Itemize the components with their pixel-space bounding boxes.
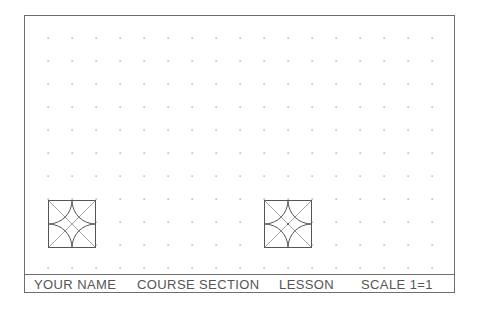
grid-dot (144, 199, 145, 200)
grid-dot (192, 245, 193, 246)
grid-dot (72, 153, 73, 154)
grid-dot (48, 268, 49, 269)
grid-dot (312, 268, 313, 269)
grid-dot (336, 130, 337, 131)
grid-dot (216, 268, 217, 269)
grid-dot (48, 38, 49, 39)
grid-dot (288, 153, 289, 154)
grid-dot (120, 107, 121, 108)
grid-dot (360, 245, 361, 246)
grid-dot (264, 38, 265, 39)
grid-dot (336, 268, 337, 269)
grid-dot (384, 61, 385, 62)
grid-dot (144, 107, 145, 108)
snap-grid (48, 38, 433, 269)
grid-dot (144, 61, 145, 62)
sheet-border (25, 16, 455, 293)
grid-dot (312, 176, 313, 177)
grid-dot (168, 199, 169, 200)
grid-dot (408, 130, 409, 131)
grid-dot (432, 130, 433, 131)
grid-dot (432, 245, 433, 246)
grid-dot (384, 107, 385, 108)
grid-dot (264, 268, 265, 269)
grid-dot (144, 222, 145, 223)
grid-dot (48, 199, 49, 200)
center-point (287, 223, 289, 225)
grid-dot (168, 84, 169, 85)
grid-dot (120, 130, 121, 131)
star-pattern-square-1 (49, 201, 96, 248)
grid-dot (216, 199, 217, 200)
grid-dot (432, 153, 433, 154)
grid-dot (384, 245, 385, 246)
grid-dot (96, 153, 97, 154)
grid-dot (216, 153, 217, 154)
grid-dot (120, 61, 121, 62)
grid-dot (48, 107, 49, 108)
grid-dot (168, 176, 169, 177)
grid-dot (384, 38, 385, 39)
grid-dot (168, 268, 169, 269)
grid-dot (312, 199, 313, 200)
grid-dot (432, 84, 433, 85)
grid-dot (384, 199, 385, 200)
grid-dot (48, 84, 49, 85)
grid-dot (240, 84, 241, 85)
grid-dot (240, 176, 241, 177)
grid-dot (120, 38, 121, 39)
grid-dot (336, 222, 337, 223)
shapes-layer (49, 201, 312, 248)
grid-dot (216, 245, 217, 246)
grid-dot (144, 153, 145, 154)
grid-dot (360, 84, 361, 85)
grid-dot (336, 245, 337, 246)
grid-dot (96, 107, 97, 108)
grid-dot (288, 199, 289, 200)
grid-dot (96, 84, 97, 85)
grid-dot (264, 61, 265, 62)
grid-dot (216, 38, 217, 39)
grid-dot (96, 130, 97, 131)
grid-dot (288, 38, 289, 39)
grid-dot (192, 61, 193, 62)
grid-dot (360, 153, 361, 154)
grid-dot (408, 107, 409, 108)
grid-dot (192, 38, 193, 39)
grid-dot (48, 61, 49, 62)
grid-dot (120, 153, 121, 154)
title-course-section: COURSE SECTION (137, 277, 260, 292)
grid-dot (336, 84, 337, 85)
grid-dot (360, 222, 361, 223)
grid-dot (120, 199, 121, 200)
grid-dot (336, 199, 337, 200)
grid-dot (216, 84, 217, 85)
grid-dot (168, 153, 169, 154)
grid-dot (72, 61, 73, 62)
grid-dot (432, 38, 433, 39)
grid-dot (360, 199, 361, 200)
grid-dot (336, 107, 337, 108)
grid-dot (408, 268, 409, 269)
grid-dot (288, 61, 289, 62)
grid-dot (240, 61, 241, 62)
grid-dot (144, 84, 145, 85)
grid-dot (96, 38, 97, 39)
grid-dot (120, 176, 121, 177)
grid-dot (336, 38, 337, 39)
grid-dot (168, 222, 169, 223)
grid-dot (384, 176, 385, 177)
grid-dot (216, 176, 217, 177)
grid-dot (360, 38, 361, 39)
title-block: YOUR NAME COURSE SECTION LESSON SCALE 1=… (34, 277, 433, 292)
grid-dot (384, 153, 385, 154)
title-lesson: LESSON (279, 277, 334, 292)
grid-dot (48, 176, 49, 177)
title-your-name: YOUR NAME (34, 277, 116, 292)
grid-dot (288, 130, 289, 131)
grid-dot (336, 153, 337, 154)
grid-dot (240, 107, 241, 108)
grid-dot (192, 84, 193, 85)
grid-dot (168, 130, 169, 131)
grid-dot (144, 130, 145, 131)
